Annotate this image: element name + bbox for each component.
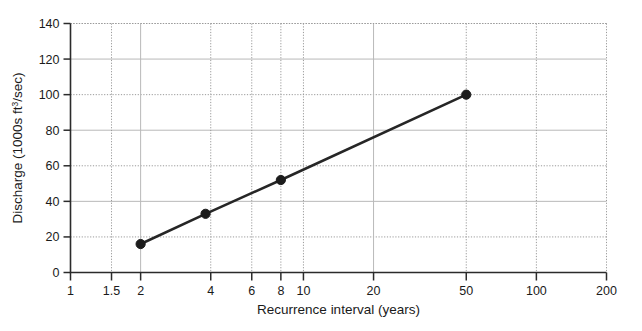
y-tick-label: 80 xyxy=(46,124,60,138)
x-tick-label: 1 xyxy=(67,284,74,298)
y-tick-label: 40 xyxy=(46,195,60,209)
y-tick-label: 140 xyxy=(39,17,60,31)
data-point xyxy=(201,209,210,218)
y-tick-label: 20 xyxy=(46,230,60,244)
axes xyxy=(71,24,607,273)
y-axis-title: Discharge (1000s ft3/sec) xyxy=(10,72,25,223)
y-tick-label: 100 xyxy=(39,88,60,102)
x-tick-label: 20 xyxy=(367,284,381,298)
axis-lines xyxy=(71,24,607,273)
x-tick-label: 1.5 xyxy=(103,284,120,298)
axis-titles: Recurrence interval (years)Discharge (10… xyxy=(10,72,420,317)
x-tick-label: 4 xyxy=(207,284,214,298)
x-tick-label: 6 xyxy=(248,284,255,298)
x-tick-label: 10 xyxy=(296,284,310,298)
x-tick-label: 50 xyxy=(459,284,473,298)
gridlines xyxy=(71,24,607,273)
data-point xyxy=(462,90,471,99)
y-tick-label: 120 xyxy=(39,53,60,67)
x-axis-title: Recurrence interval (years) xyxy=(257,302,420,317)
x-tick-label: 2 xyxy=(137,284,144,298)
x-tick-label: 100 xyxy=(526,284,547,298)
x-tick-label: 200 xyxy=(596,284,617,298)
data-point xyxy=(276,175,285,184)
data-point xyxy=(136,239,145,248)
discharge-recurrence-chart: 02040608010012014011.52468102050100200 R… xyxy=(0,0,642,331)
y-tick-label: 60 xyxy=(46,159,60,173)
y-tick-label: 0 xyxy=(53,266,60,280)
chart-canvas: 02040608010012014011.52468102050100200 R… xyxy=(0,0,642,331)
x-tick-label: 8 xyxy=(277,284,284,298)
